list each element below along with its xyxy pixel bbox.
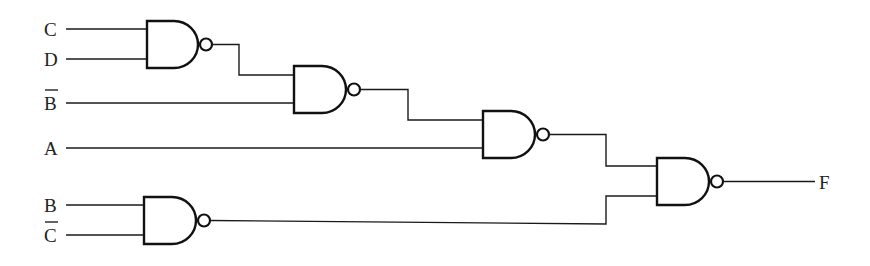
- output-label-f: F: [819, 172, 830, 193]
- nand-gate-body: [144, 197, 196, 244]
- inversion-bubble-icon: [348, 84, 360, 96]
- nand-gate-body: [483, 111, 535, 158]
- input-label-b-bar: B: [44, 93, 57, 114]
- input-label-c-bar: C: [44, 225, 57, 246]
- input-label-c: C: [44, 19, 57, 40]
- nand-gate-3: [483, 111, 549, 158]
- nand-gate-2: [294, 66, 360, 113]
- input-label-d: D: [44, 49, 58, 70]
- inversion-bubble-icon: [711, 176, 723, 188]
- wire-nand3-to-nand4: [549, 135, 657, 167]
- wire-nand2-to-nand3: [360, 90, 483, 121]
- inversion-bubble-icon: [200, 39, 212, 51]
- input-label-b: B: [44, 195, 57, 216]
- inversion-bubble-icon: [198, 215, 210, 227]
- wire-nand5-to-nand4: [210, 196, 657, 224]
- wire-nand1-to-nand2: [212, 45, 294, 76]
- nand-gate-1: [147, 21, 212, 68]
- nand-gate-body: [657, 158, 709, 205]
- input-label-a: A: [44, 138, 58, 159]
- nand-gate-body: [294, 66, 346, 113]
- logic-circuit-diagram: C D B A B C F: [0, 0, 870, 266]
- nand-gate-4: [657, 158, 723, 205]
- nand-gate-5: [144, 197, 210, 244]
- nand-gate-body: [147, 21, 198, 68]
- inversion-bubble-icon: [537, 129, 549, 141]
